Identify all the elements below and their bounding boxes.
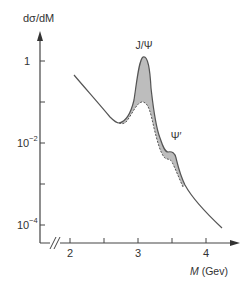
svg-text:−2: −2 bbox=[29, 134, 38, 143]
chart: dσ/dM 1 10 −2 10 −4 2 3 4 M (Gev) J/Ψ Ψ′ bbox=[0, 0, 247, 289]
x-tick-label-4: 4 bbox=[203, 247, 209, 259]
y-tick-label-1: 1 bbox=[24, 55, 30, 67]
y-axis-title: dσ/dM bbox=[23, 12, 54, 24]
y-tick-label-1e-4: 10 −4 bbox=[17, 216, 38, 231]
svg-text:10: 10 bbox=[17, 137, 29, 149]
y-axis-arrow-icon bbox=[37, 31, 43, 41]
y-tick-label-1e-2: 10 −2 bbox=[17, 134, 38, 149]
x-axis-arrow-icon bbox=[230, 240, 240, 246]
axis-break-icon bbox=[50, 237, 60, 249]
svg-text:−4: −4 bbox=[29, 216, 38, 225]
svg-text:10: 10 bbox=[17, 219, 29, 231]
jpsi-peak-label: J/Ψ bbox=[136, 39, 153, 51]
x-tick-label-2: 2 bbox=[67, 247, 73, 259]
psi-prime-peak-label: Ψ′ bbox=[171, 130, 182, 142]
chart-svg: dσ/dM 1 10 −2 10 −4 2 3 4 M (Gev) J/Ψ Ψ′ bbox=[0, 0, 247, 289]
x-axis-title: M (Gev) bbox=[190, 265, 228, 277]
x-tick-label-3: 3 bbox=[135, 247, 141, 259]
resonance-shaded-band bbox=[119, 57, 185, 187]
